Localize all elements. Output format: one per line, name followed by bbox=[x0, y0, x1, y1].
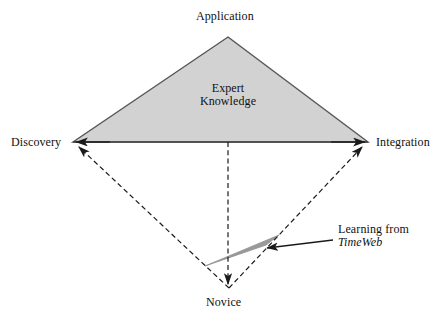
vertex-label-discovery: Discovery bbox=[11, 136, 61, 149]
region-label-line-2: Knowledge bbox=[187, 95, 269, 108]
novice-to-integration-arrow bbox=[229, 147, 362, 288]
region-label-expert-knowledge: Expert Knowledge bbox=[187, 82, 269, 108]
vertex-label-novice: Novice bbox=[206, 296, 241, 309]
annotation-leader-arrow bbox=[267, 240, 333, 248]
vertex-label-integration: Integration bbox=[376, 136, 430, 149]
vertex-label-application: Application bbox=[196, 10, 254, 23]
diagram-root: Application Discovery Integration Novice… bbox=[0, 0, 447, 321]
diagram-canvas bbox=[0, 0, 447, 321]
learning-wedge bbox=[205, 235, 279, 266]
annotation-label-timeweb: TimeWeb bbox=[338, 236, 438, 249]
novice-to-discovery-arrow bbox=[79, 147, 229, 288]
